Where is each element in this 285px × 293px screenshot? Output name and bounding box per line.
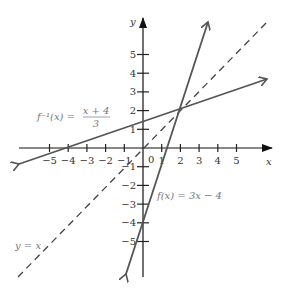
- svg-text:2: 2: [130, 105, 136, 116]
- x-axis-label: x: [266, 156, 272, 167]
- svg-text:−3: −3: [121, 199, 136, 210]
- svg-text:−5: −5: [121, 236, 136, 247]
- svg-text:−5: −5: [42, 155, 57, 166]
- svg-text:x + 4: x + 4: [83, 105, 110, 116]
- svg-text:5: 5: [233, 155, 239, 166]
- y-axis-label: y: [129, 16, 136, 27]
- svg-text:2: 2: [177, 155, 183, 166]
- svg-text:4: 4: [130, 68, 136, 79]
- svg-text:3: 3: [93, 118, 99, 129]
- function-label: f(x) = 3x − 4: [156, 190, 222, 201]
- svg-text:4: 4: [215, 155, 221, 166]
- svg-text:−2: −2: [121, 180, 136, 191]
- graph: −5 −4 −3 −2 −1 1 2 3 4 5 0 x y 5 4 3 2 1…: [0, 0, 285, 293]
- svg-text:−1: −1: [121, 161, 136, 172]
- x-tick-labels: −5 −4 −3 −2 −1 1 2 3 4 5: [42, 155, 240, 166]
- svg-text:−4: −4: [121, 217, 136, 228]
- svg-text:3: 3: [196, 155, 202, 166]
- svg-text:f⁻¹(x) =: f⁻¹(x) =: [36, 111, 75, 122]
- svg-text:5: 5: [130, 49, 136, 60]
- origin-label: 0: [148, 154, 154, 165]
- svg-text:3: 3: [130, 86, 136, 97]
- svg-text:−2: −2: [98, 155, 113, 166]
- svg-text:−3: −3: [80, 155, 95, 166]
- identity-label: y = x: [14, 240, 41, 251]
- inverse-label: f⁻¹(x) = x + 4 3: [36, 105, 110, 129]
- svg-text:−4: −4: [61, 155, 76, 166]
